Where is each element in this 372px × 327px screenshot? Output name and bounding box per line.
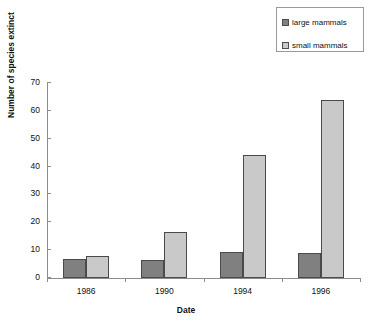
legend-label: small mammals <box>292 41 348 50</box>
bar <box>298 253 321 278</box>
y-axis-title: Number of species extinct <box>6 104 16 118</box>
chart-legend: large mammals small mammals <box>276 7 364 52</box>
legend-swatch-icon <box>282 42 289 49</box>
x-axis-tick <box>47 278 48 282</box>
y-axis-tick-label: 70 <box>31 77 40 87</box>
y-axis-tick-label: 40 <box>31 161 40 171</box>
x-axis-label: 1990 <box>125 286 203 296</box>
x-axis-tick <box>282 278 283 282</box>
bar <box>243 155 266 278</box>
x-axis-tick <box>125 278 126 282</box>
x-axis-label: 1986 <box>47 286 125 296</box>
bar <box>141 260 164 278</box>
bar-group <box>47 83 125 278</box>
x-axis-label: 1996 <box>282 286 360 296</box>
y-axis-tick-label: 50 <box>31 133 40 143</box>
legend-label: large mammals <box>292 18 347 27</box>
bar <box>164 232 187 278</box>
bar-group <box>125 83 203 278</box>
bar <box>321 100 344 278</box>
x-axis-label: 1994 <box>204 286 282 296</box>
x-axis-tick <box>360 278 361 282</box>
bar-chart: large mammals small mammals 010203040506… <box>0 0 372 327</box>
x-axis-tick <box>204 278 205 282</box>
legend-swatch-icon <box>282 19 289 26</box>
y-axis-tick-label: 0 <box>35 272 40 282</box>
bar-group <box>282 83 360 278</box>
legend-item-small-mammals: small mammals <box>282 37 359 53</box>
bar <box>220 252 243 278</box>
y-axis-tick-label: 60 <box>31 105 40 115</box>
bar <box>63 259 86 279</box>
y-axis-tick-label: 20 <box>31 216 40 226</box>
x-axis-title: Date <box>0 305 372 315</box>
y-axis-tick-label: 30 <box>31 188 40 198</box>
plot-area: 010203040506070 1986199019941996 <box>47 83 360 278</box>
bar <box>86 256 109 278</box>
y-axis-tick-label: 10 <box>31 244 40 254</box>
bar-group <box>204 83 282 278</box>
legend-item-large-mammals: large mammals <box>282 14 359 30</box>
